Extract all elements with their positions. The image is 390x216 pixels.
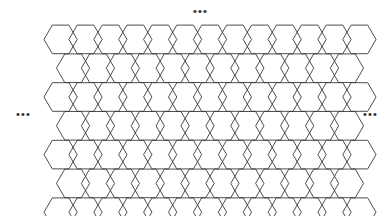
hexagon-cell — [293, 83, 326, 112]
hexagon-cell — [94, 83, 127, 112]
hexagon-cell — [281, 112, 314, 141]
hexagon-cell — [44, 25, 77, 54]
hexagon-cell — [193, 83, 226, 112]
hexagon-cell — [256, 112, 289, 141]
hexagon-cell — [256, 54, 289, 83]
hexagon-cell — [94, 25, 127, 54]
hexagon-cell — [305, 169, 338, 198]
hexagon-cell — [69, 83, 102, 112]
hexagon-cell — [69, 25, 102, 54]
hexagon-cell — [231, 112, 264, 141]
hexagon-cell — [44, 83, 77, 112]
hexagon-cell — [81, 112, 114, 141]
figure-canvas: ••• ••• ••• — [0, 0, 390, 216]
hexagon-cell — [281, 169, 314, 198]
hexagon-cell — [144, 140, 177, 169]
hexagon-cell — [156, 54, 189, 83]
hexagon-cell — [343, 25, 376, 54]
hexagon-cell — [330, 112, 363, 141]
hexagon-cell — [169, 25, 202, 54]
hexagon-cell — [268, 83, 301, 112]
hexagon-cell — [256, 169, 289, 198]
hexagon-cell — [181, 112, 214, 141]
hexagon-cell — [106, 112, 139, 141]
hexagon-cell — [343, 83, 376, 112]
hexagon-cell — [243, 83, 276, 112]
hexagon-cell — [318, 83, 351, 112]
hexagon-cell — [119, 83, 152, 112]
hexagon-cell — [56, 112, 89, 141]
hexagon-cell — [293, 140, 326, 169]
hexagon-cell — [206, 54, 239, 83]
left-ellipsis: ••• — [16, 109, 31, 120]
hexagon-cell — [181, 54, 214, 83]
hexagon-cell — [305, 54, 338, 83]
hexagon-cell — [181, 169, 214, 198]
hexagon-cell — [193, 140, 226, 169]
hexagon-cell — [169, 140, 202, 169]
top-ellipsis: ••• — [193, 6, 208, 17]
hexagon-cell — [169, 83, 202, 112]
hexagon-cell — [131, 112, 164, 141]
hexagonal-lattice — [0, 0, 390, 216]
hexagon-cell — [281, 54, 314, 83]
hexagon-cell — [193, 25, 226, 54]
hexagon-cell — [56, 54, 89, 83]
hexagon-cell — [293, 25, 326, 54]
hexagon-cell — [330, 54, 363, 83]
hexagon-cell — [231, 169, 264, 198]
hexagon-cell — [218, 25, 251, 54]
hexagon-cell — [268, 25, 301, 54]
hexagon-cell — [206, 112, 239, 141]
hexagon-cell — [231, 54, 264, 83]
hexagon-cell — [343, 140, 376, 169]
hexagon-cell — [106, 169, 139, 198]
hexagon-cell — [56, 169, 89, 198]
hexagon-cell — [81, 169, 114, 198]
hexagon-cell — [218, 140, 251, 169]
hexagon-tiles — [44, 25, 376, 216]
hexagon-cell — [206, 169, 239, 198]
hexagon-cell — [44, 140, 77, 169]
hexagon-cell — [81, 54, 114, 83]
hexagon-cell — [156, 169, 189, 198]
hexagon-cell — [106, 54, 139, 83]
hexagon-cell — [268, 140, 301, 169]
hexagon-cell — [305, 112, 338, 141]
hexagon-cell — [144, 25, 177, 54]
hexagon-cell — [119, 25, 152, 54]
hexagon-cell — [243, 25, 276, 54]
hexagon-cell — [131, 54, 164, 83]
hexagon-cell — [119, 140, 152, 169]
hexagon-cell — [330, 169, 363, 198]
right-ellipsis: ••• — [363, 109, 378, 120]
hexagon-cell — [318, 25, 351, 54]
hexagon-cell — [69, 140, 102, 169]
hexagon-cell — [131, 169, 164, 198]
hexagon-cell — [156, 112, 189, 141]
hexagon-cell — [144, 83, 177, 112]
hexagon-cell — [243, 140, 276, 169]
hexagon-cell — [218, 83, 251, 112]
hexagon-cell — [94, 140, 127, 169]
hexagon-cell — [318, 140, 351, 169]
